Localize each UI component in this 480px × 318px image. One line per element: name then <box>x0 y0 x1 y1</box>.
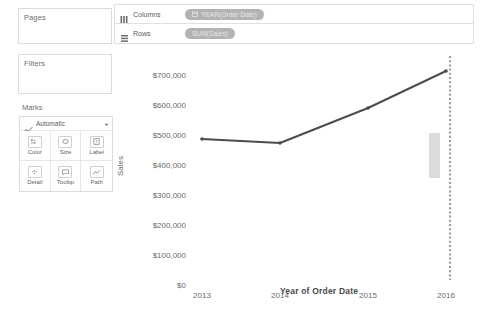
rows-shelf[interactable]: Rows SUM(Sales) <box>114 24 474 44</box>
path-line-icon <box>90 166 104 178</box>
plot-svg <box>114 48 480 318</box>
left-sidebar: Pages Filters Marks Automatic ▼ <box>18 4 114 314</box>
label-text-icon: T <box>90 136 104 148</box>
rows-pill[interactable]: SUM(Sales) <box>185 28 235 39</box>
line-chart-icon <box>23 120 33 128</box>
marks-label-button[interactable]: T Label <box>81 131 112 161</box>
pages-card[interactable]: Pages <box>18 8 112 44</box>
data-point-2013 <box>200 137 204 141</box>
rows-icon <box>120 29 129 38</box>
data-point-2015 <box>366 106 370 110</box>
marks-tooltip-button[interactable]: Tooltip <box>51 161 82 191</box>
marks-label-label: Label <box>89 149 104 156</box>
filters-card[interactable]: Filters <box>18 54 112 94</box>
columns-icon <box>120 10 129 19</box>
marks-card: Marks Automatic ▼ <box>18 102 112 194</box>
marks-size-button[interactable]: Size <box>51 131 82 161</box>
chart-view[interactable]: Sales $700,000 $600,000 $500,000 $400,00… <box>114 48 480 318</box>
chevron-down-icon[interactable]: ▼ <box>103 121 109 126</box>
mark-type-label: Automatic <box>36 120 101 127</box>
columns-pill[interactable]: YEAR(Order Date) <box>185 9 264 20</box>
marks-detail-label: Detail <box>27 179 42 186</box>
mark-type-dropdown[interactable]: Automatic ▼ <box>20 117 112 131</box>
svg-text:T: T <box>95 139 98 144</box>
filters-card-title: Filters <box>19 55 111 68</box>
sales-line-series <box>202 71 446 143</box>
marks-card-box: Automatic ▼ Color <box>19 116 113 192</box>
shelf-container: Columns YEAR(Order Date) Rows <box>114 4 474 44</box>
columns-shelf-label: Columns <box>133 11 181 18</box>
columns-shelf[interactable]: Columns YEAR(Order Date) <box>114 4 474 24</box>
marks-path-label: Path <box>90 179 102 186</box>
color-palette-icon <box>28 136 42 148</box>
marks-button-grid: Color Size <box>20 131 112 191</box>
marks-detail-button[interactable]: Detail <box>20 161 51 191</box>
tooltip-bubble-icon <box>58 166 72 178</box>
data-point-2014 <box>278 141 282 145</box>
drop-indicator-rect <box>429 133 440 178</box>
tableau-worksheet: Pages Filters Marks Automatic ▼ <box>0 0 480 318</box>
marks-color-label: Color <box>28 149 42 156</box>
x-axis-title: Year of Order Date <box>204 286 434 296</box>
detail-dots-icon <box>28 166 42 178</box>
pages-card-title: Pages <box>19 9 111 22</box>
columns-pill-text: YEAR(Order Date) <box>201 11 257 18</box>
marks-card-title: Marks <box>19 103 111 116</box>
marks-tooltip-label: Tooltip <box>57 179 74 186</box>
size-circle-icon <box>58 136 72 148</box>
rows-shelf-label: Rows <box>133 30 181 37</box>
date-field-icon <box>192 11 198 17</box>
marks-color-button[interactable]: Color <box>20 131 51 161</box>
rows-pill-text: SUM(Sales) <box>192 30 228 37</box>
data-point-2016 <box>444 69 448 73</box>
marks-path-button[interactable]: Path <box>81 161 112 191</box>
marks-size-label: Size <box>60 149 72 156</box>
